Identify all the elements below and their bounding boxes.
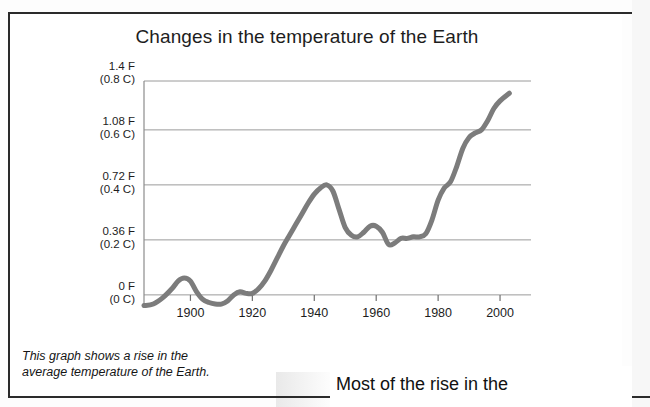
next-page-heading: Most of the rise in the	[336, 374, 508, 395]
frame-top-extension	[622, 12, 632, 14]
data-line-series-0	[144, 93, 509, 305]
y-tick-celsius: (0.8 C)	[100, 73, 135, 86]
y-tick-label: 1.4 F (0.8 C)	[100, 60, 135, 86]
y-tick-fahrenheit: 0 F	[118, 280, 135, 292]
y-tick-label: 1.08 F (0.6 C)	[100, 115, 135, 141]
caption-line-2: average temperature of the Earth.	[22, 365, 210, 379]
x-tick-label: 1940	[300, 306, 328, 320]
x-tick-label: 1900	[177, 306, 205, 320]
y-tick-fahrenheit: 0.72 F	[102, 170, 135, 182]
y-tick-celsius: (0.6 C)	[100, 128, 135, 141]
x-tick-label: 1920	[238, 306, 266, 320]
y-tick-label: 0.36 F (0.2 C)	[100, 225, 135, 251]
chart-container: Changes in the temperature of the Earth …	[0, 0, 614, 386]
x-tick-label: 1980	[424, 306, 452, 320]
y-tick-label: 0.72 F (0.4 C)	[100, 170, 135, 196]
x-tick-label: 1960	[362, 306, 390, 320]
y-tick-celsius: (0 C)	[109, 293, 135, 306]
chart-title: Changes in the temperature of the Earth	[0, 26, 614, 48]
gridlines	[144, 81, 531, 295]
y-tick-celsius: (0.4 C)	[100, 183, 135, 196]
y-axis-labels: 1.4 F (0.8 C) 1.08 F (0.6 C) 0.72 F (0.4…	[55, 60, 135, 320]
y-tick-fahrenheit: 0.36 F	[102, 225, 135, 237]
x-axis-tickmarks	[190, 295, 500, 301]
y-tick-label: 0 F (0 C)	[109, 280, 135, 306]
x-axis-labels: 190019201940196019802000	[0, 306, 614, 336]
x-tick-label: 2000	[486, 306, 514, 320]
y-tick-fahrenheit: 1.4 F	[109, 60, 135, 72]
chart-caption: This graph shows a rise in the average t…	[22, 348, 272, 380]
caption-line-1: This graph shows a rise in the	[22, 349, 188, 363]
page-edge-shadow	[276, 372, 336, 407]
y-tick-fahrenheit: 1.08 F	[102, 115, 135, 127]
y-tick-celsius: (0.2 C)	[100, 238, 135, 251]
